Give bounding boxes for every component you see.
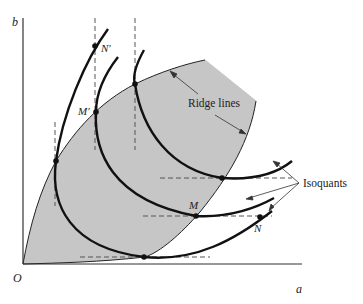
arrowhead-icon: [269, 204, 274, 211]
point-m: [193, 213, 199, 219]
origin-label: O: [13, 271, 22, 285]
point-n: [257, 214, 263, 220]
point-min-1: [141, 254, 147, 260]
isoquants-arrows: [246, 161, 299, 211]
isoquants-label: Isoquants: [303, 177, 348, 190]
x-axis-label: a: [296, 282, 302, 296]
point-n-label: N: [253, 222, 262, 234]
arrowhead-icon: [246, 196, 253, 200]
point-ridge-3: [132, 81, 138, 87]
point-n-prime: [92, 43, 98, 49]
y-axis-label: b: [12, 15, 18, 29]
arrowhead-icon: [273, 161, 280, 167]
point-m-label: M: [188, 199, 199, 211]
ridge-lines-label: Ridge lines: [188, 97, 241, 110]
point-min-3: [219, 175, 225, 181]
point-m-prime-label: M′: [77, 105, 90, 117]
point-ridge-1: [53, 158, 59, 164]
point-n-prime-label: N′: [100, 42, 111, 54]
isoquant-ridge-line-diagram: b O a Ridge lines Isoquants N′ M′ M N: [0, 0, 363, 304]
point-m-prime: [93, 109, 99, 115]
